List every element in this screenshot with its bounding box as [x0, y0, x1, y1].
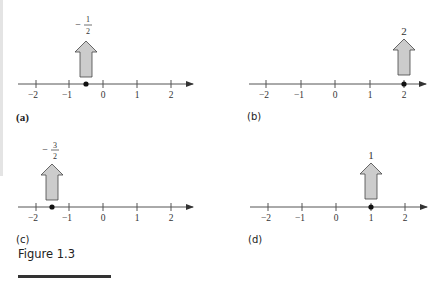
- svg-text:1: 1: [86, 15, 90, 24]
- tick-labels: −2 −1 0 1 2: [261, 213, 408, 223]
- point-dot: [368, 204, 373, 209]
- up-arrow-icon: [360, 163, 382, 199]
- svg-text:0: 0: [101, 213, 106, 223]
- svg-text:−: −: [75, 19, 81, 30]
- caption-d: (d): [248, 234, 262, 245]
- svg-text:1: 1: [135, 90, 140, 100]
- svg-text:2: 2: [403, 213, 408, 223]
- tick-labels: −2 −1 0 1 2: [28, 213, 174, 223]
- number-line-figure: −2 −1 0 1 2 − 1 2 −2 −1 0 1 2: [0, 0, 448, 284]
- point-dot: [49, 204, 54, 209]
- tick-labels: −2 −1 0 1 2: [259, 90, 407, 100]
- panel-a: −2 −1 0 1 2 − 1 2: [18, 15, 193, 100]
- svg-text:−1: −1: [295, 213, 305, 223]
- up-arrow-icon: [41, 164, 63, 200]
- svg-text:0: 0: [101, 90, 106, 100]
- point-dot: [83, 81, 88, 86]
- svg-text:3: 3: [53, 141, 57, 150]
- point-label: 2: [401, 25, 407, 37]
- figure-title: Figure 1.3: [18, 247, 75, 261]
- caption-b: (b): [247, 111, 261, 122]
- svg-text:2: 2: [86, 27, 90, 36]
- svg-text:0: 0: [334, 213, 339, 223]
- svg-text:−2: −2: [28, 213, 38, 223]
- panel-c: −2 −1 0 1 2 − 3 2: [18, 141, 193, 223]
- svg-text:2: 2: [169, 90, 174, 100]
- tick-labels: −2 −1 0 1 2: [28, 90, 174, 100]
- svg-text:0: 0: [333, 90, 338, 100]
- svg-text:−: −: [42, 144, 48, 155]
- svg-text:1: 1: [369, 213, 374, 223]
- svg-text:1: 1: [368, 90, 373, 100]
- svg-text:1: 1: [135, 213, 140, 223]
- svg-text:−2: −2: [261, 213, 271, 223]
- caption-a: (a): [16, 111, 29, 123]
- divider-rule: [18, 275, 111, 278]
- point-label: − 1 2: [75, 15, 92, 36]
- svg-text:−1: −1: [294, 90, 304, 100]
- svg-text:−1: −1: [62, 213, 72, 223]
- caption-c: (c): [16, 234, 29, 245]
- svg-text:2: 2: [402, 90, 407, 100]
- svg-text:2: 2: [169, 213, 174, 223]
- svg-text:−2: −2: [259, 90, 269, 100]
- up-arrow-icon: [393, 39, 415, 75]
- point-dot: [401, 81, 406, 86]
- panel-d: −2 −1 0 1 2 1: [250, 149, 427, 223]
- svg-text:−1: −1: [62, 90, 72, 100]
- svg-text:2: 2: [53, 152, 57, 161]
- point-label: 1: [368, 149, 374, 161]
- svg-text:−2: −2: [28, 90, 38, 100]
- panel-b: −2 −1 0 1 2 2: [249, 25, 426, 100]
- up-arrow-icon: [75, 41, 97, 77]
- point-label: − 3 2: [42, 141, 59, 161]
